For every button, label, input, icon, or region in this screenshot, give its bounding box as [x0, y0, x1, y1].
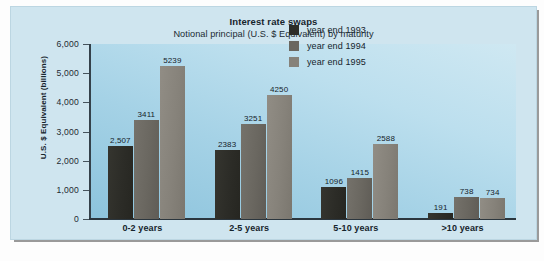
y-tick-label: 6,000	[56, 39, 79, 49]
y-tick	[83, 161, 89, 162]
bar-fill	[215, 150, 240, 220]
bar[interactable]: 5239	[160, 66, 185, 219]
bar-fill	[373, 144, 398, 219]
y-axis-line	[89, 44, 91, 219]
bar[interactable]: 3411	[134, 120, 159, 219]
bar-fill	[108, 146, 133, 219]
bar[interactable]: 4250	[267, 95, 292, 219]
y-axis-title: U.S. $ Equivalent (billions)	[39, 38, 48, 178]
bar-group: 191738734	[428, 44, 505, 219]
bar-fill	[160, 66, 185, 219]
bar-value-label: 734	[486, 188, 500, 197]
chart-card: Interest rate swaps Notional principal (…	[10, 6, 537, 240]
bar-fill	[241, 124, 266, 219]
bar[interactable]: 2383	[215, 150, 240, 220]
bar-fill	[428, 213, 453, 219]
legend-swatch-icon	[289, 57, 299, 67]
bar-value-label: 1415	[351, 168, 369, 177]
y-tick-label: 5,000	[56, 68, 79, 78]
y-tick	[83, 102, 89, 103]
chart-title: Interest rate swaps	[11, 16, 536, 27]
y-tick	[83, 73, 89, 74]
bar-fill	[267, 95, 292, 219]
bar[interactable]: 738	[454, 197, 479, 219]
bar-value-label: 191	[434, 203, 448, 212]
legend-item[interactable]: year end 1995	[289, 57, 366, 67]
y-tick-label: 2,000	[56, 156, 79, 166]
y-tick-label: 1,000	[56, 185, 79, 195]
y-tick-label: 0	[74, 214, 79, 224]
legend-item[interactable]: year end 1993	[289, 25, 366, 35]
bar-fill	[134, 120, 159, 219]
bar-value-label: 1096	[325, 177, 343, 186]
legend-label: year end 1994	[307, 41, 366, 51]
bar[interactable]: 2,507	[108, 146, 133, 219]
bar-value-label: 3251	[244, 114, 262, 123]
legend-swatch-icon	[289, 25, 299, 35]
chart-legend: year end 1993year end 1994year end 1995	[289, 25, 366, 73]
x-axis-label: 5-10 years	[303, 223, 410, 233]
bar[interactable]: 2588	[373, 144, 398, 219]
y-tick	[83, 44, 89, 45]
bar[interactable]: 1415	[347, 178, 372, 219]
legend-swatch-icon	[289, 41, 299, 51]
y-tick-label: 3,000	[56, 127, 79, 137]
bar[interactable]: 3251	[241, 124, 266, 219]
chart-page: Interest rate swaps Notional principal (…	[0, 0, 544, 261]
bar[interactable]: 191	[428, 213, 453, 219]
y-tick	[83, 190, 89, 191]
bar-fill	[347, 178, 372, 219]
bar[interactable]: 1096	[321, 187, 346, 219]
bar-value-label: 4250	[270, 85, 288, 94]
bar-fill	[454, 197, 479, 219]
chart-subtitle: Notional principal (U.S. $ Equivalent) b…	[11, 29, 536, 39]
bar[interactable]: 734	[480, 198, 505, 219]
bar-value-label: 2,507	[110, 136, 131, 145]
x-axis-label: 0-2 years	[89, 223, 196, 233]
x-axis-label: >10 years	[409, 223, 516, 233]
bar-value-label: 5239	[163, 56, 181, 65]
title-block: Interest rate swaps Notional principal (…	[11, 16, 536, 39]
y-tick	[83, 219, 89, 220]
bar-group: 238332514250	[215, 44, 292, 219]
bar-value-label: 738	[460, 187, 474, 196]
bar-fill	[321, 187, 346, 219]
legend-item[interactable]: year end 1994	[289, 41, 366, 51]
bar-value-label: 2383	[218, 140, 236, 149]
legend-label: year end 1993	[307, 25, 366, 35]
bar-fill	[480, 198, 505, 219]
y-tick-label: 4,000	[56, 97, 79, 107]
bar-group: 2,50734115239	[108, 44, 185, 219]
legend-label: year end 1995	[307, 57, 366, 67]
y-tick	[83, 132, 89, 133]
bar-value-label: 2588	[377, 134, 395, 143]
x-axis-label: 2-5 years	[196, 223, 303, 233]
bar-value-label: 3411	[138, 110, 156, 119]
